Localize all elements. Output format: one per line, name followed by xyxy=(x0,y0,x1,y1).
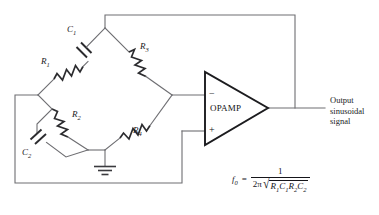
formula-lhs: f0 xyxy=(232,174,238,186)
capacitor-C1-plate-left xyxy=(77,47,88,58)
label-C1: C1 xyxy=(67,25,76,36)
formula-den-coeff: 2π xyxy=(253,179,262,189)
opamp-label: OPAMP xyxy=(210,103,241,113)
formula-denominator: 2π √ R1C1R2C2 xyxy=(251,178,310,193)
arm-upper-right-seg-b xyxy=(146,77,172,96)
label-R1: R1 xyxy=(41,57,50,68)
resistor-R2 xyxy=(52,109,68,137)
radicand-term-4: C2 xyxy=(297,181,306,191)
radicand-term-2: C1 xyxy=(279,181,288,191)
label-R3: R3 xyxy=(140,42,149,53)
capacitor-C2-plate-lower xyxy=(35,134,46,144)
formula-equals: = xyxy=(242,174,247,184)
capacitor-C2-plate-upper xyxy=(31,130,42,140)
resistor-R1 xyxy=(54,66,83,81)
noninverting-input-symbol: + xyxy=(209,125,215,135)
arm-lower-left-seg-a xyxy=(38,95,52,109)
output-label: Output sinusoidal signal xyxy=(330,95,364,127)
wien-bridge-oscillator-diagram: R1 C1 R3 R2 C2 R4 OPAMP − + Output sinus… xyxy=(0,0,379,215)
label-R2: R2 xyxy=(72,110,81,121)
circuit-schematic xyxy=(0,0,379,215)
output-label-line3: signal xyxy=(330,116,364,127)
arm-lower-right-seg-b xyxy=(150,95,172,126)
radical-sign-icon: √ xyxy=(263,178,270,194)
arm-upper-left-seg-a xyxy=(38,79,54,95)
wire-C2-branch xyxy=(37,109,52,133)
output-label-line1: Output xyxy=(330,95,364,106)
arm-lower-right-seg-a xyxy=(105,138,120,150)
frequency-formula: f0 = 1 2π √ R1C1R2C2 xyxy=(232,166,310,193)
arm-upper-left-seg-c xyxy=(87,28,106,47)
arm-upper-left-seg-b xyxy=(83,62,88,67)
radicand-term-3: R2 xyxy=(289,181,298,191)
label-C2: C2 xyxy=(22,148,31,159)
arm-lower-left-seg-b xyxy=(68,137,88,150)
formula-radicand: R1C1R2C2 xyxy=(269,180,307,193)
arm-upper-right-seg-a xyxy=(105,28,129,52)
label-R4: R4 xyxy=(133,126,142,137)
radicand-term-1: R1 xyxy=(270,181,279,191)
formula-fraction: 1 2π √ R1C1R2C2 xyxy=(251,166,310,193)
feedback-wire-top xyxy=(105,15,295,108)
output-label-line2: sinusoidal xyxy=(330,106,364,117)
formula-numerator: 1 xyxy=(272,166,289,177)
wire-C2-branch-return xyxy=(47,143,89,158)
resistor-R3 xyxy=(129,50,146,77)
inverting-input-symbol: − xyxy=(209,89,215,99)
formula-radical: √ R1C1R2C2 xyxy=(263,179,308,193)
